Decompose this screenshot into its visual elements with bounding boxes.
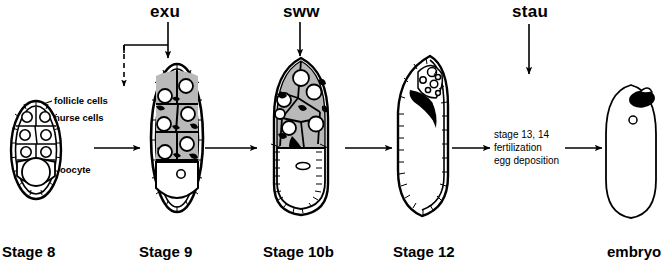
- process-note-line-3: egg deposition: [494, 154, 559, 167]
- stage12-oocyte: [392, 50, 454, 222]
- stage-label-stage9: Stage 9: [139, 243, 192, 260]
- process-note-line-2: fertilization: [494, 141, 559, 154]
- embryo-outline: [598, 82, 664, 222]
- process-note-line-1: stage 13, 14: [494, 128, 559, 141]
- gene-arrow-layer: [0, 0, 672, 274]
- stage-label-embryo: embryo: [607, 243, 661, 260]
- annotation-follicle-cells: follicle cells: [54, 95, 108, 106]
- annotation-nurse-cells: nurse cells: [54, 112, 104, 123]
- annotation-oocyte: oocyte: [60, 164, 91, 175]
- stage-label-stage10b: Stage 10b: [263, 243, 334, 260]
- stage-label-stage8: Stage 8: [2, 243, 55, 260]
- stage10b-egg-chamber: [268, 56, 334, 218]
- oogenesis-diagram: exu sww stau: [0, 0, 672, 274]
- stage-label-stage12: Stage 12: [393, 243, 455, 260]
- process-note: stage 13, 14 fertilization egg depositio…: [494, 128, 559, 167]
- stage9-egg-chamber: [148, 62, 206, 214]
